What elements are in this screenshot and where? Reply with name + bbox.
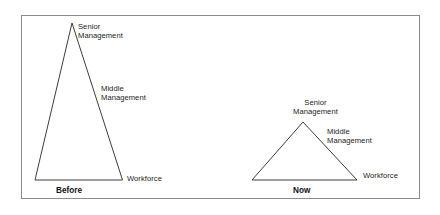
before-senior-management-line2: Management (78, 31, 123, 40)
now-middle-management-label: Middle Management (327, 127, 372, 146)
now-senior-management-label: Senior Management (293, 98, 338, 117)
before-senior-management-label: Senior Management (78, 22, 123, 41)
now-caption: Now (293, 186, 310, 196)
before-caption: Before (56, 186, 82, 196)
before-workforce-label: Workforce (127, 174, 162, 183)
now-middle-management-line2: Management (327, 136, 372, 145)
diagram-canvas: Senior Management Middle Management Work… (0, 0, 440, 215)
now-senior-management-line2: Management (293, 107, 338, 116)
before-senior-management-line1: Senior (78, 22, 123, 31)
before-middle-management-label: Middle Management (101, 84, 146, 103)
now-middle-management-line1: Middle (327, 127, 372, 136)
now-workforce-label: Workforce (363, 171, 398, 180)
before-middle-management-line1: Middle (101, 84, 146, 93)
before-middle-management-line2: Management (101, 93, 146, 102)
now-senior-management-line1: Senior (293, 98, 338, 107)
pyramid-shapes-layer (0, 0, 440, 215)
